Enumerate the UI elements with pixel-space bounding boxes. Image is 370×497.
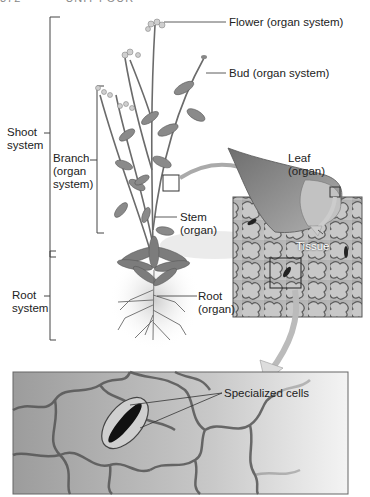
- stem-label: Stem (organ): [180, 211, 217, 237]
- bud-label: Bud (organ system): [229, 67, 329, 80]
- shoot-system-bracket: [44, 17, 60, 257]
- root-system-label: Root system: [12, 289, 48, 315]
- flower-label: Flower (organ system): [229, 16, 343, 29]
- branch-label: Branch (organ system): [53, 152, 93, 191]
- arrow-to-leaf: [180, 165, 240, 178]
- stoma-small: [344, 246, 348, 258]
- leaf-label: Leaf (organ): [288, 152, 325, 178]
- root-label: Root (organ): [198, 290, 235, 316]
- leaf-selection-box: [163, 175, 179, 191]
- specialized-cells-label: Specialized cells: [224, 387, 309, 400]
- bud: [201, 55, 207, 59]
- tissue-label: Tissue: [296, 240, 329, 253]
- shoot-system-label: Shoot system: [7, 126, 43, 152]
